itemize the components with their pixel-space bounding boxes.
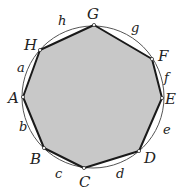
vertex-label-a: A [6, 89, 19, 107]
vertex-label-e: E [164, 90, 176, 108]
vertex-point-h [38, 48, 41, 51]
inscribed-octagon-diagram: ABCDEFGH abcdefgh [0, 0, 185, 192]
vertex-point-a [21, 95, 24, 98]
vertex-point-c [82, 166, 85, 169]
vertex-label-d: D [143, 149, 156, 167]
vertex-label-f: F [157, 47, 169, 65]
vertex-point-d [137, 149, 140, 152]
vertex-label-c: C [79, 173, 91, 191]
arc-label-b: b [19, 119, 27, 134]
arc-label-g: g [131, 20, 139, 35]
vertex-label-g: G [87, 5, 99, 23]
arc-label-d: d [116, 166, 124, 181]
arc-label-h: h [58, 13, 66, 28]
vertex-point-b [42, 146, 45, 149]
vertex-label-b: B [29, 150, 41, 168]
arc-label-c: c [55, 166, 63, 181]
arc-label-e: e [163, 122, 171, 137]
vertex-point-g [92, 23, 95, 26]
vertex-point-f [150, 57, 153, 60]
vertex-point-e [160, 96, 163, 99]
arc-label-a: a [17, 60, 25, 75]
arc-label-f: f [163, 70, 171, 85]
vertex-label-h: H [23, 36, 38, 54]
